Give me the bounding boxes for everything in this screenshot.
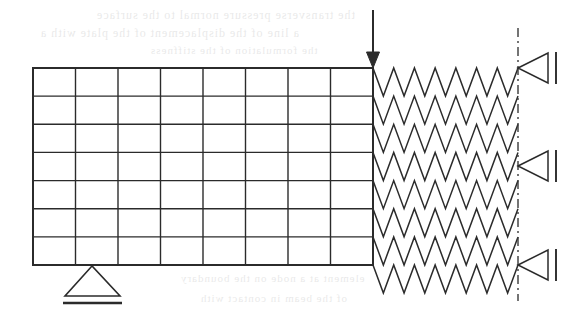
beam-on-elastic-foundation-diagram [0, 0, 577, 314]
point-load-arrow [367, 10, 380, 68]
boundary-support-triangle [518, 250, 548, 280]
support-triangle [65, 266, 120, 296]
spring-zigzag [373, 237, 518, 265]
spring-zigzag [373, 152, 518, 180]
boundary-support-triangle [518, 151, 548, 181]
roller-boundary-symbols [518, 52, 556, 281]
elastic-foundation-springs [373, 68, 518, 293]
spring-zigzag [373, 265, 518, 293]
spring-zigzag [373, 124, 518, 152]
figure-canvas: the transverse pressure normal to the su… [0, 0, 577, 314]
pinned-support [63, 266, 122, 303]
spring-zigzag [373, 68, 518, 96]
load-arrow-head [367, 52, 380, 68]
boundary-support-triangle [518, 53, 548, 83]
rectangular-finite-element-mesh [33, 68, 373, 265]
spring-zigzag [373, 96, 518, 124]
spring-zigzag [373, 181, 518, 209]
spring-zigzag [373, 209, 518, 237]
